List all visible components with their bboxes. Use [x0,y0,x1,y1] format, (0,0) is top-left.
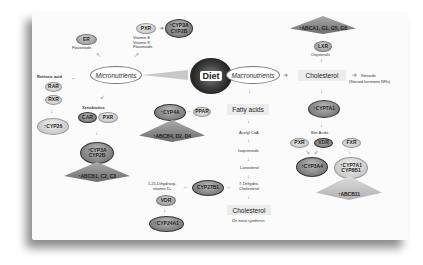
xenobiotics-label: Xenobiotics [82,106,105,111]
flavonoids-label: Flavonoids [72,46,91,51]
er-node: ER [76,34,97,45]
acetyl-coa: Acetyl CoA [239,131,259,136]
lanosterol: Lanosterol [240,166,259,171]
arrow: ↓ [320,122,323,128]
dehydrocholesterol: 7-Dehydro-Cholesterol [239,182,259,191]
arrow: ↓ [50,108,53,114]
steroid-note: (Steroid hormone NRs) [349,80,390,85]
car-node: CAR [78,112,97,123]
rxr-node: RXR [45,95,62,105]
cyp3a-top-node: ↑CYP3ACYP2B [165,19,193,38]
cholesterol-node: Cholesterol [298,70,346,81]
cyp4a-node: ↑CYP4A [154,104,186,121]
arrow: ↓ [348,149,351,155]
cholesterol-bottom: Cholesterol [227,205,271,215]
vitamins-label: Vitamin EVitamin KFlavonoids [133,36,152,50]
retinoic-acid-label: Retinoic acid [37,75,62,80]
vdr-chol-node: VDR [314,138,333,148]
arrow: ➜ [352,72,357,78]
rar-node: RAR [45,82,62,92]
arrow: ← [226,184,232,190]
lxr-node: LXR [314,41,332,52]
arrow: ↓ [247,156,250,162]
arrow: ↓ [247,194,250,200]
bile-acids-label: Bile Acids [311,131,328,136]
arrow: ← [71,75,77,81]
arrow: ↓ [247,118,250,124]
arrow: ↓ [320,88,323,94]
de-novo-label: De novo synthesis [232,219,265,224]
dihydroxy-vitd-label: 1,25-Dihydroxy-vitamin D₃ [148,182,176,191]
arrow: ↓ [95,130,98,136]
cyp26-node: ↑CYP26 [37,118,69,135]
pxr-chol-node: PXR [290,138,309,148]
cyp27b1-node: CYP27B1 [192,180,224,196]
arrow: ↙ [314,149,319,155]
fatty-acids-node: Fatty acids [227,104,269,115]
arrow: ↓ [247,137,250,143]
cyp24a1-node: ↑CYP24A1 [149,216,184,232]
cyp3a4-node: ↑CYP3A4 [296,157,328,177]
ppar-node: PPAR [193,107,211,117]
isoprenoids: Isoprenoids [238,149,259,154]
arrow: ↘ [305,149,310,155]
arrow: ↖ [96,52,101,58]
fxr-node: FXR [342,138,361,148]
arrow: ↗ [134,52,139,58]
arrow-left [142,70,188,80]
cyp7a1-node: ↑CYP7A1 [308,100,340,118]
arrow: ↓ [248,88,251,94]
cyp3a-mid-node: ↑CYP3ACYP2B [80,142,114,164]
arrow: ↓ [247,173,250,179]
arrow: ➜ [159,25,164,31]
arrow: ➜ [283,72,288,78]
arrow: ← [186,108,192,114]
arrow: ← [183,184,189,190]
oxysterols-label: Oxysterols [311,53,330,58]
pxr-top-node: PXR [136,23,156,34]
macronutrients-node: Macronutrients [226,66,280,84]
arrow: ↓ [163,207,166,213]
pxr-mid-node: PXR [98,112,118,123]
arrow: ↑ [320,58,323,64]
steroids-label: Steroids [361,74,376,79]
vdr-left-node: VDR [156,195,176,206]
arrow: ↙ [100,94,105,100]
micronutrients-node: Micronutrients [90,66,142,84]
cyp7a1-cyp8b1-node: ↑CYP7A1CYP8B1 [334,157,368,179]
